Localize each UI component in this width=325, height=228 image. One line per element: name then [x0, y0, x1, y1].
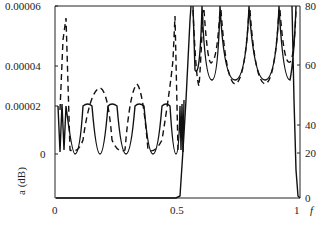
- y-right-tick-20: 20: [305, 148, 316, 159]
- x-tick-0.5: 0.5: [170, 205, 184, 216]
- y-right-tick-60: 60: [305, 60, 316, 71]
- x-tick-1: 1: [294, 205, 300, 216]
- y-left-tick-0: 0: [40, 149, 46, 160]
- y-right-tick-80: 80: [305, 1, 316, 12]
- y-right-tick-40: 40: [305, 120, 316, 131]
- y-left-tick-0.00002: 0.00002: [5, 101, 41, 112]
- solid-passband-curve: [58, 100, 184, 154]
- solid-attenuation-curve: [56, 6, 300, 198]
- chart-canvas: [0, 0, 325, 228]
- y-left-tick-0.00004: 0.00004: [5, 61, 41, 72]
- y-axis-label: a (dB): [15, 167, 27, 195]
- y-left-tick-0.00006: 0.00006: [5, 1, 41, 12]
- x-tick-0: 0: [52, 205, 58, 216]
- y-right-tick-0: 0: [305, 193, 311, 204]
- x-axis-label: f: [310, 205, 313, 216]
